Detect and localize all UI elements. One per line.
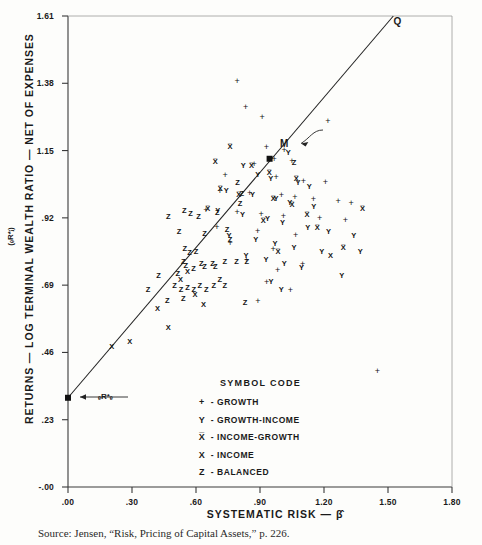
legend-symbol-icon: X̅: [196, 432, 208, 442]
legend-symbol-icon: X: [196, 450, 208, 460]
data-point-growth-income: Y: [279, 287, 284, 295]
data-point-income-growth: X̅: [294, 175, 299, 183]
data-point-balanced: Z: [235, 179, 240, 187]
x-tick-label: 1.20: [304, 497, 344, 507]
point-m-label: M: [280, 138, 289, 149]
data-point-growth: +: [323, 178, 328, 187]
data-point-balanced: Z: [202, 263, 207, 271]
data-point-growth: +: [293, 231, 298, 240]
data-point-growth-income: Y: [253, 236, 258, 244]
x-tick-label: .00: [48, 497, 88, 507]
data-point-growth: +: [274, 172, 279, 181]
source-note: Source: Jensen, “Risk, Pricing of Capita…: [38, 527, 458, 539]
data-point-growth: +: [301, 176, 306, 185]
data-point-growth: +: [348, 198, 353, 207]
data-point-growth-income: Y: [307, 183, 312, 191]
data-point-balanced: Z: [177, 228, 182, 236]
data-point-growth-income: Y: [240, 211, 245, 219]
data-point-growth-income: Y: [305, 224, 310, 232]
data-point-balanced: Z: [243, 299, 248, 307]
data-point-growth: +: [375, 366, 380, 375]
data-point-balanced: Z: [204, 287, 209, 295]
data-point-balanced: Z: [192, 287, 197, 295]
data-point-growth-income: Y: [351, 232, 356, 240]
data-point-growth-income: Y: [224, 187, 229, 195]
legend-dash: -: [208, 432, 217, 442]
x-tick-label: .90: [240, 497, 280, 507]
data-point-growth-income: Y: [250, 191, 255, 199]
x-tick-label: .30: [112, 497, 152, 507]
x-axis-title: SYSTEMATIC RISK — β̂: [150, 508, 400, 520]
data-point-growth: +: [275, 265, 280, 274]
data-point-balanced: Z: [176, 270, 181, 278]
legend-item-label: INCOME: [217, 450, 254, 460]
data-point-balanced: Z: [182, 207, 187, 215]
data-point-growth-income: Y: [255, 171, 260, 179]
data-point-balanced: Z: [198, 283, 203, 291]
data-point-balanced: Z: [196, 214, 201, 222]
data-point-income-growth: X̅: [315, 224, 320, 232]
data-point-income: X: [127, 338, 132, 346]
data-point-balanced: Z: [223, 258, 228, 266]
data-point-income-growth: X̅: [271, 195, 276, 203]
x-tick-label: .60: [176, 497, 216, 507]
x-tick-label: 1.50: [368, 497, 408, 507]
data-point-balanced: Z: [228, 236, 233, 244]
legend-symbol-icon: Y: [196, 415, 208, 425]
legend-symbol-code: SYMBOL CODE +-GROWTHY-GROWTH-INCOMEX̅-IN…: [196, 378, 356, 485]
data-point-balanced: Z: [238, 201, 243, 209]
data-point-growth: +: [235, 77, 240, 86]
legend-item-income: X-INCOME: [196, 450, 356, 460]
data-point-balanced: Z: [234, 258, 239, 266]
data-point-growth: +: [255, 296, 260, 305]
legend-item-balanced: Z-BALANCED: [196, 467, 356, 477]
y-tick-label: -.00: [20, 482, 54, 492]
data-point-income-growth: X̅: [289, 201, 294, 209]
data-point-growth-income: Y: [319, 248, 324, 256]
data-point-income-growth: X̅: [218, 185, 223, 193]
data-point-growth-income: Y: [241, 163, 246, 171]
data-point-growth: +: [259, 112, 264, 121]
data-point-income-growth: X̅: [360, 205, 365, 213]
data-point-growth: +: [271, 155, 276, 164]
data-point-balanced: Z: [240, 191, 245, 199]
legend-item-label: GROWTH: [217, 397, 259, 407]
data-point-income-growth: X̅: [276, 248, 281, 256]
y-axis-subtitle: (ₑR*ⱼ): [6, 217, 15, 257]
data-point-balanced: Z: [165, 297, 170, 305]
figure-scatter-plot: ++++++++++++++++++++++++++++++++++++++YY…: [0, 0, 482, 545]
data-point-growth: +: [335, 196, 340, 205]
data-point-income-growth: X̅: [304, 211, 309, 219]
data-point-growth: +: [214, 222, 219, 231]
data-point-balanced: Z: [172, 283, 177, 291]
data-point-balanced: Z: [292, 159, 297, 167]
data-point-growth-income: Y: [326, 228, 331, 236]
data-point-balanced: Z: [191, 265, 196, 273]
y-tick-label: 1.61: [20, 11, 54, 21]
legend-item-growth-income: Y-GROWTH-INCOME: [196, 415, 356, 425]
data-point-growth-income: Y: [269, 278, 274, 286]
point-q-label: Q: [393, 16, 401, 27]
data-point-growth-income: Y: [358, 248, 363, 256]
data-point-growth-income: Y: [311, 203, 316, 211]
legend-item-label: BALANCED: [217, 467, 269, 477]
data-point-balanced: Z: [187, 249, 192, 257]
data-point-balanced: Z: [218, 276, 223, 284]
data-point-income: X: [201, 301, 206, 309]
legend-symbol-icon: +: [196, 397, 208, 407]
data-point-balanced: Z: [188, 210, 193, 218]
legend-symbol-icon: Z: [196, 467, 208, 477]
data-point-income-growth: X̅: [261, 218, 266, 226]
data-point-growth-income: Y: [282, 261, 287, 269]
data-point-income-growth: X̅: [228, 143, 233, 151]
data-point-income: X: [328, 252, 333, 260]
data-point-balanced: Z: [166, 214, 171, 222]
data-point-balanced: Z: [156, 272, 161, 280]
legend-title: SYMBOL CODE: [220, 378, 356, 388]
data-point-balanced: Z: [215, 209, 220, 217]
data-point-growth: +: [343, 215, 348, 224]
data-point-growth: +: [317, 213, 322, 222]
y-axis-title: RETURNS — LOG TERMINAL WEALTH RATIO — NE…: [23, 74, 35, 424]
data-point-growth: +: [325, 116, 330, 125]
data-point-balanced: Z: [194, 248, 199, 256]
